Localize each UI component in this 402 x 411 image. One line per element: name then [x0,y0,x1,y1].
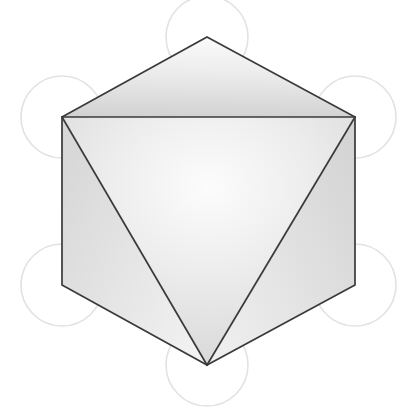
polyhedron-faces [62,37,355,365]
octahedron-figure [0,0,402,411]
figure-canvas [0,0,402,411]
face-top [62,37,355,117]
